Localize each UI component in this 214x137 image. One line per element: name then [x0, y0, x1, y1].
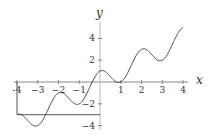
axes: [14, 22, 188, 130]
y-tick-label: 4: [89, 33, 95, 43]
x-tick-label: 4: [180, 85, 186, 95]
y-axis-label: y: [95, 6, 103, 20]
function-plot: -4−3−2−1123442−2−4 x y: [0, 0, 214, 137]
x-tick-label: −3: [31, 85, 45, 95]
y-tick-label: 2: [89, 55, 95, 65]
y-tick-label: −4: [82, 121, 96, 131]
x-tick-label: 1: [118, 85, 124, 95]
x-tick-label: 3: [159, 85, 165, 95]
x-tick-label: 2: [139, 85, 145, 95]
x-axis-label: x: [196, 73, 203, 87]
y-tick-label: −2: [82, 99, 95, 109]
x-tick-label: −1: [73, 85, 86, 95]
